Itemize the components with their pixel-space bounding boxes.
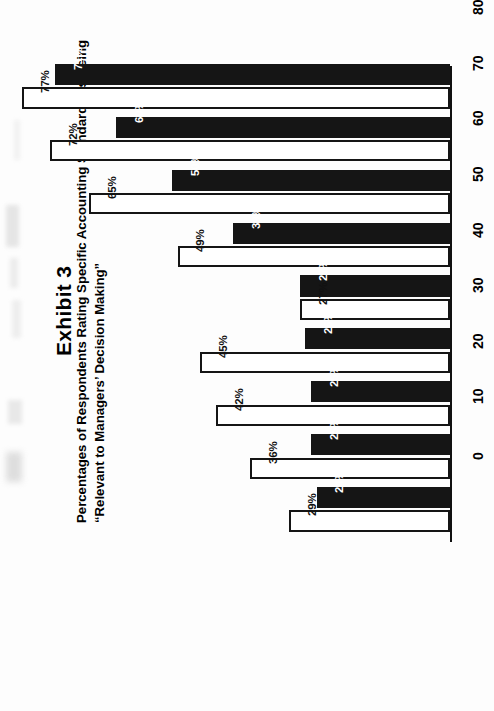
scan-smudge (14, 120, 20, 160)
bar-series-light-2 (89, 193, 450, 214)
scan-smudge (6, 452, 22, 482)
scan-smudge (6, 205, 19, 247)
bar-value-label-series-dark-1: 60% (133, 100, 145, 122)
bar-value-label-series-dark-7: 25% (328, 418, 340, 440)
tick-label-30: 30 (470, 278, 486, 294)
bar-value-label-series-dark-6: 25% (328, 365, 340, 387)
value-axis-line (450, 66, 452, 542)
bar-series-dark-1 (116, 117, 450, 138)
bar-series-light-5 (200, 352, 450, 373)
bar-value-label-series-dark-4: 27% (317, 259, 329, 281)
bar-value-label-series-light-3: 49% (194, 230, 206, 252)
bar-value-label-series-light-2: 65% (106, 177, 118, 199)
bar-value-label-series-dark-2: 50% (189, 153, 201, 175)
bar-series-light-3 (178, 246, 450, 267)
exhibit-subtitle-line-1: Percentages of Respondents Rating Specif… (74, 40, 89, 523)
scan-smudge (8, 400, 22, 424)
bar-value-label-series-light-8: 29% (306, 494, 318, 516)
tick-label-80: 80 (470, 0, 486, 15)
tick-label-10: 10 (470, 389, 486, 405)
exhibit-page: Exhibit 3 Percentages of Respondents Rat… (0, 0, 494, 711)
bar-value-label-series-dark-0: 71% (72, 47, 84, 69)
tick-label-60: 60 (470, 111, 486, 127)
bar-series-dark-2 (172, 170, 450, 191)
bar-value-label-series-dark-3: 39% (250, 206, 262, 228)
scan-smudge (12, 300, 21, 338)
bar-value-label-series-light-6: 42% (233, 388, 245, 410)
tick-label-40: 40 (470, 222, 486, 238)
bar-value-label-series-dark-5: 26% (322, 312, 334, 334)
bar-value-label-series-light-4: 27% (317, 283, 329, 305)
exhibit-number-title: Exhibit 3 (52, 266, 76, 356)
bar-value-label-series-light-0: 77% (39, 71, 51, 93)
bar-series-light-7 (250, 458, 450, 479)
bar-chart-plot-area: 71%77%60%72%50%65%39%49%27%27%26%45%25%4… (96, 62, 448, 538)
bar-series-dark-3 (233, 223, 450, 244)
bar-value-label-series-light-7: 36% (267, 441, 279, 463)
bar-series-light-0 (22, 87, 450, 108)
tick-label-50: 50 (470, 166, 486, 182)
bar-series-dark-0 (55, 64, 450, 85)
tick-label-70: 70 (470, 55, 486, 71)
scan-smudge (10, 258, 18, 288)
bar-series-light-1 (50, 140, 450, 161)
tick-label-0: 0 (470, 452, 486, 460)
bar-value-label-series-dark-8: 24% (333, 471, 345, 493)
bar-value-label-series-light-5: 45% (217, 335, 229, 357)
bar-value-label-series-light-1: 72% (67, 124, 79, 146)
tick-label-20: 20 (470, 333, 486, 349)
